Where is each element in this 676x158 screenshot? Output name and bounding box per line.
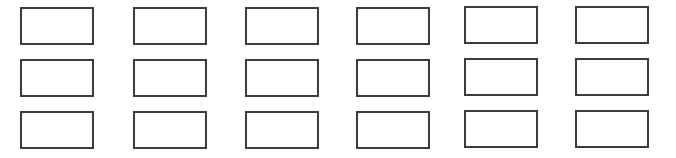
empty-box bbox=[575, 6, 649, 44]
empty-box bbox=[20, 7, 94, 45]
empty-box bbox=[356, 59, 430, 97]
empty-box bbox=[133, 7, 207, 45]
empty-box bbox=[20, 59, 94, 97]
empty-box bbox=[575, 58, 649, 96]
empty-box bbox=[575, 110, 649, 148]
empty-box bbox=[356, 111, 430, 149]
empty-box bbox=[245, 111, 319, 149]
empty-box bbox=[464, 6, 538, 44]
empty-box bbox=[356, 7, 430, 45]
empty-box bbox=[464, 110, 538, 148]
empty-box bbox=[20, 111, 94, 149]
empty-box bbox=[245, 7, 319, 45]
empty-box bbox=[245, 59, 319, 97]
empty-box bbox=[133, 111, 207, 149]
empty-box bbox=[133, 59, 207, 97]
empty-box bbox=[464, 58, 538, 96]
empty-box-grid bbox=[0, 0, 676, 158]
